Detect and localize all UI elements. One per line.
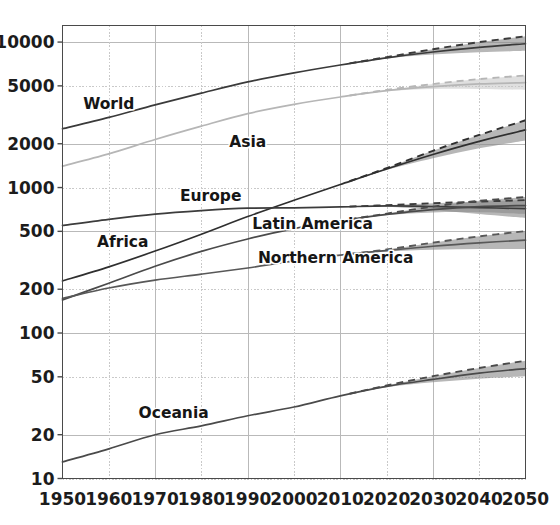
x-axis-tick-label: 1980 [178, 489, 225, 509]
x-axis-tick-label: 2040 [456, 489, 503, 509]
x-axis-tick-label: 2030 [409, 489, 456, 509]
y-axis-tick-label: 10000 [0, 32, 55, 52]
series-label-latin-america: Latin America [252, 215, 373, 233]
x-axis-tick-label: 1990 [224, 489, 271, 509]
x-axis-tick-label: 1950 [39, 489, 86, 509]
y-axis-tick-label: 5000 [7, 76, 54, 96]
x-axis-ticks: 1950196019701980199020002010202020302040… [39, 489, 549, 509]
y-axis-tick-label: 2000 [7, 134, 54, 154]
x-axis-tick-label: 2050 [502, 489, 549, 509]
y-axis-tick-label: 10 [31, 469, 55, 489]
y-axis-tick-label: 200 [19, 279, 55, 299]
series-label-oceania: Oceania [139, 404, 209, 422]
x-axis-tick-label: 2000 [270, 489, 317, 509]
series-label-world: World [83, 95, 134, 113]
x-axis-tick-label: 2020 [363, 489, 410, 509]
x-axis-tick-label: 2010 [317, 489, 364, 509]
y-axis-tick-label: 20 [31, 425, 55, 445]
y-axis-tick-label: 1000 [7, 178, 54, 198]
series-label-asia: Asia [229, 133, 266, 151]
series-label-northern-america: Northern America [258, 249, 414, 267]
chart-svg: 10000500020001000500200100502010 1950196… [0, 0, 560, 525]
x-axis-tick-label: 1960 [85, 489, 132, 509]
y-axis-tick-label: 50 [31, 367, 55, 387]
y-axis-tick-label: 100 [19, 323, 55, 343]
population-projection-chart: 10000500020001000500200100502010 1950196… [0, 0, 560, 525]
series-label-europe: Europe [180, 187, 242, 205]
x-axis-tick-label: 1970 [131, 489, 178, 509]
y-axis-tick-label: 500 [19, 221, 55, 241]
series-label-africa: Africa [97, 233, 148, 251]
